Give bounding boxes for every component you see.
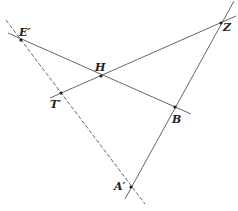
label-B: B [171, 113, 181, 126]
point-A [129, 185, 132, 188]
line-T-H-Z [50, 16, 236, 98]
point-B [173, 105, 176, 108]
label-T: T′ [50, 98, 61, 111]
point-H [99, 74, 102, 77]
line-Z-B-A [125, 1, 234, 199]
geometry-diagram: E′HZT′BA′ [0, 0, 238, 211]
line-E-T-A-dashed [6, 20, 145, 204]
point-T [59, 91, 62, 94]
label-E: E′ [18, 26, 30, 39]
diagram-labels: E′HZT′BA′ [18, 21, 232, 193]
label-H: H [94, 61, 106, 74]
label-A: A′ [113, 180, 126, 193]
label-Z: Z [222, 21, 232, 34]
diagram-svg: E′HZT′BA′ [0, 0, 238, 211]
diagram-lines [6, 1, 236, 204]
